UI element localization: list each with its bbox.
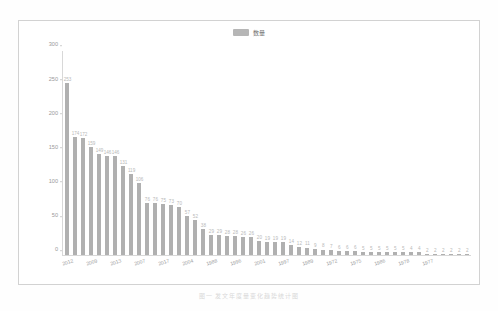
bar-slot[interactable]: 57: [183, 51, 191, 255]
bar-slot[interactable]: 6: [343, 51, 351, 255]
bar[interactable]: 131: [121, 166, 126, 255]
bar-slot[interactable]: 19: [271, 51, 279, 255]
bar-slot[interactable]: 12: [295, 51, 303, 255]
bar[interactable]: 38: [201, 229, 206, 255]
bar[interactable]: 7: [329, 250, 334, 255]
bar-slot[interactable]: 2: [455, 51, 463, 255]
bar[interactable]: 20: [257, 241, 262, 255]
bar-slot[interactable]: 2: [431, 51, 439, 255]
bar[interactable]: 172: [81, 138, 86, 255]
bar-slot[interactable]: 8: [319, 51, 327, 255]
bar[interactable]: 119: [129, 174, 134, 255]
bar[interactable]: 73: [169, 205, 174, 255]
bar-slot[interactable]: 131: [119, 51, 127, 255]
bar-slot[interactable]: 2: [439, 51, 447, 255]
bar-slot[interactable]: 5: [375, 51, 383, 255]
bar[interactable]: 2: [425, 254, 430, 255]
bar-slot[interactable]: 28: [231, 51, 239, 255]
bar[interactable]: 5: [401, 252, 406, 255]
bar[interactable]: 19: [281, 242, 286, 255]
bar-slot[interactable]: 20: [255, 51, 263, 255]
bar[interactable]: 253: [65, 83, 70, 255]
bar[interactable]: 76: [153, 203, 158, 255]
bar[interactable]: 9: [313, 249, 318, 255]
bar-slot[interactable]: 6: [335, 51, 343, 255]
bar-slot[interactable]: 253: [63, 51, 71, 255]
bar-slot[interactable]: 75: [159, 51, 167, 255]
bar[interactable]: 4: [409, 252, 414, 255]
bar[interactable]: 2: [433, 254, 438, 255]
bar[interactable]: 106: [137, 183, 142, 255]
bar[interactable]: 2: [465, 254, 470, 255]
bar-slot[interactable]: 52: [191, 51, 199, 255]
bar-slot[interactable]: 70: [175, 51, 183, 255]
bar[interactable]: 174: [73, 137, 78, 255]
bar[interactable]: 5: [361, 252, 366, 255]
bar-slot[interactable]: 5: [391, 51, 399, 255]
bar[interactable]: 5: [385, 252, 390, 255]
bar[interactable]: 29: [217, 235, 222, 255]
bar-slot[interactable]: 73: [167, 51, 175, 255]
bar[interactable]: 14: [289, 245, 294, 255]
bar-slot[interactable]: 19: [263, 51, 271, 255]
bar[interactable]: 6: [353, 251, 358, 255]
bar-slot[interactable]: 26: [247, 51, 255, 255]
bar[interactable]: 28: [233, 236, 238, 255]
bar-slot[interactable]: 76: [143, 51, 151, 255]
bar[interactable]: 8: [321, 250, 326, 255]
bar-slot[interactable]: 26: [239, 51, 247, 255]
bar[interactable]: 5: [369, 252, 374, 255]
bar-slot[interactable]: 146: [103, 51, 111, 255]
bar-slot[interactable]: 29: [215, 51, 223, 255]
bar-slot[interactable]: 119: [127, 51, 135, 255]
bar[interactable]: 5: [393, 252, 398, 255]
bar[interactable]: 75: [161, 204, 166, 255]
bar[interactable]: 6: [337, 251, 342, 255]
bar-slot[interactable]: 2: [423, 51, 431, 255]
bar-slot[interactable]: 149: [95, 51, 103, 255]
bar-slot[interactable]: 38: [199, 51, 207, 255]
bar-slot[interactable]: 174: [71, 51, 79, 255]
bar-slot[interactable]: 7: [327, 51, 335, 255]
bar-slot[interactable]: 4: [415, 51, 423, 255]
bar[interactable]: 29: [209, 235, 214, 255]
bar[interactable]: 12: [297, 247, 302, 255]
bar[interactable]: 26: [241, 237, 246, 255]
bar-slot[interactable]: 14: [287, 51, 295, 255]
bar[interactable]: 19: [273, 242, 278, 255]
bar[interactable]: 76: [145, 203, 150, 255]
bar-slot[interactable]: 6: [351, 51, 359, 255]
bar[interactable]: 146: [105, 156, 110, 255]
bar-slot[interactable]: 5: [399, 51, 407, 255]
bar-slot[interactable]: 4: [407, 51, 415, 255]
bar-slot[interactable]: 76: [151, 51, 159, 255]
bar-slot[interactable]: 159: [87, 51, 95, 255]
bar[interactable]: 2: [441, 254, 446, 255]
bar-slot[interactable]: 5: [367, 51, 375, 255]
bar-slot[interactable]: 29: [207, 51, 215, 255]
bar[interactable]: 149: [97, 154, 102, 255]
bar[interactable]: 11: [305, 248, 310, 255]
bar[interactable]: 19: [265, 242, 270, 255]
bar[interactable]: 26: [249, 237, 254, 255]
bar-slot[interactable]: 28: [223, 51, 231, 255]
bar[interactable]: 2: [449, 254, 454, 255]
bar-slot[interactable]: 2: [447, 51, 455, 255]
bar[interactable]: 28: [225, 236, 230, 255]
bar[interactable]: 2: [457, 254, 462, 255]
bar[interactable]: 159: [89, 147, 94, 255]
bar-slot[interactable]: 9: [311, 51, 319, 255]
bar[interactable]: 4: [417, 252, 422, 255]
bar[interactable]: 57: [185, 216, 190, 255]
bar-slot[interactable]: 19: [279, 51, 287, 255]
bar-slot[interactable]: 146: [111, 51, 119, 255]
bar[interactable]: 70: [177, 207, 182, 255]
bar[interactable]: 146: [113, 156, 118, 255]
bar[interactable]: 52: [193, 220, 198, 255]
bar-slot[interactable]: 106: [135, 51, 143, 255]
bar[interactable]: 6: [345, 251, 350, 255]
bar-slot[interactable]: 11: [303, 51, 311, 255]
bar-slot[interactable]: 5: [359, 51, 367, 255]
bar-slot[interactable]: 2: [463, 51, 471, 255]
bar[interactable]: 5: [377, 252, 382, 255]
